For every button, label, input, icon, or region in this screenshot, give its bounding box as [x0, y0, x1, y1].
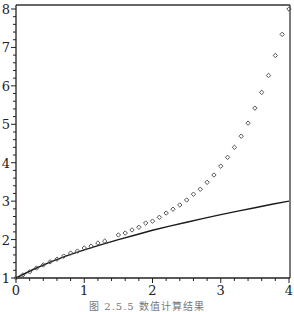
data-point-marker [171, 207, 175, 211]
data-point-marker [266, 73, 270, 77]
data-point-marker [219, 164, 223, 168]
data-point-marker [212, 173, 216, 177]
x-tick-label: 2 [148, 283, 156, 298]
data-point-marker [150, 219, 154, 223]
data-point-marker [253, 106, 257, 110]
data-point-marker [280, 32, 284, 36]
data-point-marker [260, 90, 264, 94]
data-point-marker [184, 198, 188, 202]
data-point-marker [239, 134, 243, 138]
data-point-marker [116, 233, 120, 237]
x-axis-ticks: 01234 [12, 278, 293, 298]
plot-frame [16, 5, 290, 278]
data-point-marker [246, 121, 250, 125]
numerical-result-markers [14, 7, 291, 280]
y-tick-label: 1 [2, 271, 10, 286]
y-tick-label: 5 [2, 117, 10, 132]
data-point-marker [225, 155, 229, 159]
data-point-marker [198, 187, 202, 191]
y-tick-label: 8 [2, 2, 10, 17]
data-point-marker [143, 221, 147, 225]
data-point-marker [157, 215, 161, 219]
x-tick-label: 3 [217, 283, 225, 298]
data-point-marker [164, 211, 168, 215]
data-point-marker [232, 145, 236, 149]
figure-caption: 图 2.5.5 数值计算结果 [0, 298, 294, 312]
data-point-marker [205, 180, 209, 184]
y-tick-label: 3 [2, 194, 10, 209]
chart: 01234 12345678 [0, 0, 294, 300]
y-tick-label: 6 [2, 79, 10, 94]
data-point-marker [178, 203, 182, 207]
y-tick-label: 2 [2, 233, 10, 248]
data-point-marker [137, 225, 141, 229]
exact-solution-line [16, 201, 289, 278]
data-point-marker [273, 53, 277, 57]
data-point-marker [191, 192, 195, 196]
x-tick-label: 4 [285, 283, 293, 298]
data-point-marker [130, 228, 134, 232]
y-tick-label: 4 [2, 156, 10, 171]
y-axis-ticks: 12345678 [2, 2, 16, 286]
data-point-marker [123, 231, 127, 235]
x-tick-label: 1 [80, 283, 88, 298]
x-tick-label: 0 [12, 283, 20, 298]
y-tick-label: 7 [2, 40, 10, 55]
